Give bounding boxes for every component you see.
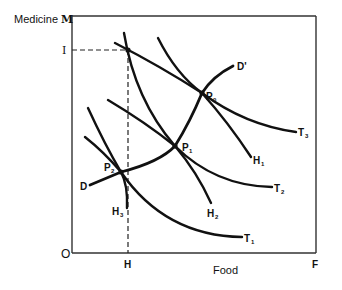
curve-H1	[158, 38, 251, 157]
x-mark-H: H	[124, 259, 131, 270]
label-H2: H 2	[207, 208, 219, 220]
svg-text:2: 2	[111, 168, 115, 174]
label-H1: H 1	[253, 155, 265, 167]
svg-text:H: H	[207, 208, 214, 219]
y-mark-I: I	[62, 44, 66, 57]
svg-text:1: 1	[189, 148, 193, 154]
x-axis-label: Food	[213, 264, 238, 276]
svg-text:P: P	[182, 142, 189, 153]
point-I-H	[125, 47, 130, 52]
svg-text:2: 2	[215, 214, 219, 220]
curve-T2	[108, 100, 272, 187]
label-T1: T 1	[244, 233, 255, 245]
indifference-diagram: Medicine M I O H Food F D' D P 0 P 1 P 2…	[0, 0, 342, 290]
label-T3: T 3	[298, 127, 309, 139]
point-P1	[172, 143, 177, 148]
svg-text:1: 1	[261, 161, 265, 167]
svg-text:T: T	[244, 233, 250, 244]
svg-text:P: P	[206, 91, 213, 102]
svg-text:H: H	[112, 206, 119, 217]
point-P2	[118, 169, 123, 174]
svg-text:1: 1	[251, 239, 255, 245]
axes-frame	[72, 16, 316, 253]
x-axis-letter: F	[312, 259, 318, 270]
label-P1: P 1	[182, 142, 193, 154]
label-D-prime: D'	[237, 61, 247, 72]
point-P0	[199, 90, 204, 95]
origin-label: O	[61, 247, 70, 261]
svg-text:2: 2	[281, 189, 285, 195]
y-axis-label: Medicine	[14, 13, 58, 25]
svg-text:H: H	[253, 155, 260, 166]
svg-text:P: P	[104, 162, 111, 173]
svg-text:3: 3	[305, 133, 309, 139]
svg-text:T: T	[298, 127, 304, 138]
label-H3: H 3	[112, 206, 124, 218]
label-D: D	[80, 181, 87, 192]
svg-text:T: T	[274, 183, 280, 194]
label-P0: P 0	[206, 91, 217, 103]
y-axis-letter: M	[61, 13, 73, 26]
label-T2: T 2	[274, 183, 285, 195]
svg-text:3: 3	[120, 212, 124, 218]
